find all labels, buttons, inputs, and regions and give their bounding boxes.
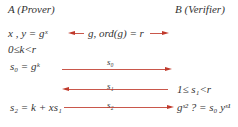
s0-arrow-head-icon [165,67,172,71]
s2-arrow-line [64,107,168,108]
s2-label: s₂ [107,99,114,111]
s1-label: s₁ [107,80,114,92]
s1-arrow-line [68,89,168,90]
s0-arrow-line [62,69,166,70]
s0-def: s₀ = gᵏ [10,60,40,72]
s2-arrow-head-icon [167,105,174,109]
verifier-label: B (Verifier) [175,3,225,15]
prover-label: A (Prover) [8,3,55,15]
arrow-right-line [150,33,162,34]
public-params: g, ord(g) = r [88,27,144,39]
verify-eq: gˢ² ? = s₀ yˢ¹ [177,101,231,113]
k-range: 0≤k<r [8,43,36,55]
prover-label-text: A (Prover) [8,3,55,15]
verifier-label-text: B (Verifier) [175,3,225,15]
s2-def: s₂ = k + xs₁ [10,101,62,113]
setup-left: x , y = gˣ [8,27,48,39]
arrow-left-line [74,33,84,34]
s0-label: s₀ [107,56,114,68]
s1-range: 1≤ s₁<r [177,83,211,95]
arrow-right-head-icon [162,31,169,35]
